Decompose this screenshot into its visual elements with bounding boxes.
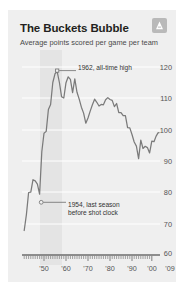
- x-axis-label-90: '90: [122, 264, 142, 273]
- x-axis-label-09: '09: [160, 264, 180, 273]
- annotation-shotclock-line1: 1954, last season: [68, 201, 120, 208]
- y-axis-label-80: 80: [164, 188, 172, 197]
- chart-card: The Buckets Bubble Average points scored…: [8, 10, 176, 282]
- x-axis-label-70: '70: [78, 264, 98, 273]
- annotation-marker-peak: [56, 69, 76, 72]
- y-axis-label-120: 120: [160, 63, 172, 72]
- y-axis-label-110: 110: [160, 94, 172, 103]
- annotation-shotclock-line2: before shot clock: [68, 209, 118, 216]
- y-axis-label-70: 70: [164, 220, 172, 229]
- shaded-band: [40, 50, 62, 265]
- x-axis-label-60: '60: [56, 264, 76, 273]
- annotation-peak-label: 1962, all-time high: [78, 64, 132, 72]
- chart-plot-area: [8, 10, 176, 282]
- x-axis-label-80: '80: [100, 264, 120, 273]
- y-axis-label-100: 100: [160, 126, 172, 135]
- y-axis-label-90: 90: [164, 157, 172, 166]
- y-axis-label-60: 60: [164, 249, 172, 258]
- x-axis-label-00: '00: [142, 264, 162, 273]
- x-axis-label-50: '50: [34, 264, 54, 273]
- annotation-shotclock-label: 1954, last season before shot clock: [68, 201, 120, 217]
